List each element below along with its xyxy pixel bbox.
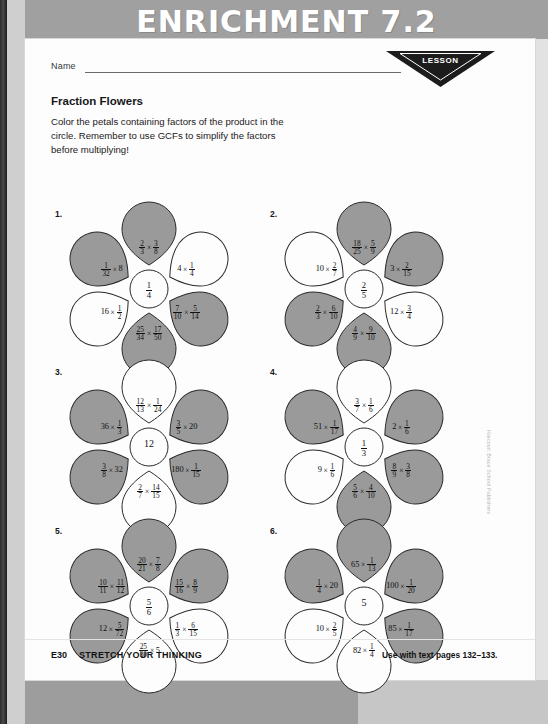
footer-page-code: E30	[51, 650, 67, 660]
page-right-gutter	[535, 39, 548, 680]
publisher-credit: Harcourt Brace School Publishers	[486, 430, 492, 514]
name-write-line[interactable]	[85, 72, 401, 73]
name-label: Name	[51, 61, 76, 71]
footer-divider	[25, 639, 535, 640]
worksheet-page: Name LESSON 7.2 Fraction Flowers Color t…	[25, 39, 535, 680]
problem-number: 6.	[270, 526, 277, 536]
flower-problem-4: 4.37×162×1689×3856×4109×1651×11713	[270, 367, 475, 527]
problem-number: 2.	[270, 209, 277, 219]
petal-top-shaded[interactable]	[337, 202, 391, 265]
flower-diagram: 37×162×1689×3856×4109×1651×11713	[288, 375, 440, 523]
lesson-badge-number: 7.2	[386, 67, 495, 77]
instruction-line-3: before multiplying!	[51, 143, 351, 157]
flower-center-product: 13	[341, 439, 387, 457]
scan-left-dark-edge	[0, 0, 7, 724]
petal-top-unshaded[interactable]	[122, 360, 176, 423]
instructions-text: Color the petals containing factors of t…	[51, 115, 351, 157]
name-field[interactable]: Name	[51, 59, 401, 77]
problem-number: 5.	[55, 526, 62, 536]
petal-top-unshaded[interactable]	[337, 360, 391, 423]
footer-text-reference: Use with text pages 132–133.	[382, 650, 497, 660]
footer-section-label: STRETCH YOUR THINKING	[79, 650, 202, 660]
petal-top-shaded[interactable]	[122, 519, 176, 582]
page-footer: E30 STRETCH YOUR THINKING Use with text …	[51, 650, 511, 666]
problem-number: 1.	[55, 209, 62, 219]
flower-problem-1: 1.23×384×14710×5142534×175016×12132×814	[55, 209, 260, 369]
flower-center-product: 56	[126, 598, 172, 616]
instruction-line-2: circle. Remember to use GCFs to simplify…	[51, 129, 351, 143]
instruction-line-1: Color the petals containing factors of t…	[51, 115, 351, 129]
flower-diagram: 1825×593×21512×3449×91023×61010×2725	[288, 217, 440, 365]
petal-top-shaded[interactable]	[122, 202, 176, 265]
scan-left-gutter	[7, 0, 25, 724]
page-title: ENRICHMENT 7.2	[25, 4, 548, 39]
flower-center-product: 14	[126, 281, 172, 299]
worksheet-title: Fraction Flowers	[51, 95, 143, 107]
flower-center-product: 12	[126, 439, 172, 449]
lesson-badge: LESSON 7.2	[386, 51, 495, 87]
flower-diagram: 23×384×14710×5142534×175016×12132×814	[73, 217, 225, 365]
lesson-badge-word: LESSON	[386, 56, 495, 65]
problem-number: 3.	[55, 367, 62, 377]
flower-problem-3: 3.1213×12435×20180×11527×141538×3236×131…	[55, 367, 260, 527]
flower-center-product: 5	[341, 598, 387, 608]
flower-diagram: 1213×12435×20180×11527×141538×3236×1312	[73, 375, 225, 523]
flower-problem-2: 2.1825×593×21512×3449×91023×61010×2725	[270, 209, 475, 369]
petal-top-shaded[interactable]	[337, 519, 391, 582]
flower-center-product: 25	[341, 281, 387, 299]
header-band: ENRICHMENT 7.2	[25, 0, 548, 43]
problem-number: 4.	[270, 367, 277, 377]
